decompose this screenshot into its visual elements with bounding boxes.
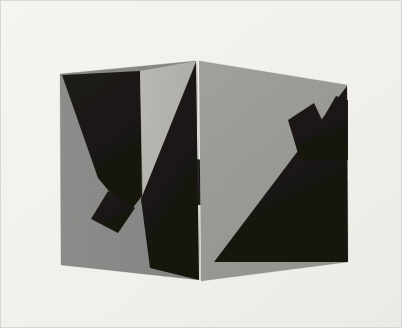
painted-forms (60, 61, 348, 281)
artwork-frame: Untitled Geometric Cube Composition Abst… (0, 0, 402, 328)
abstract-geometric-painting: Untitled Geometric Cube Composition Abst… (0, 0, 402, 328)
